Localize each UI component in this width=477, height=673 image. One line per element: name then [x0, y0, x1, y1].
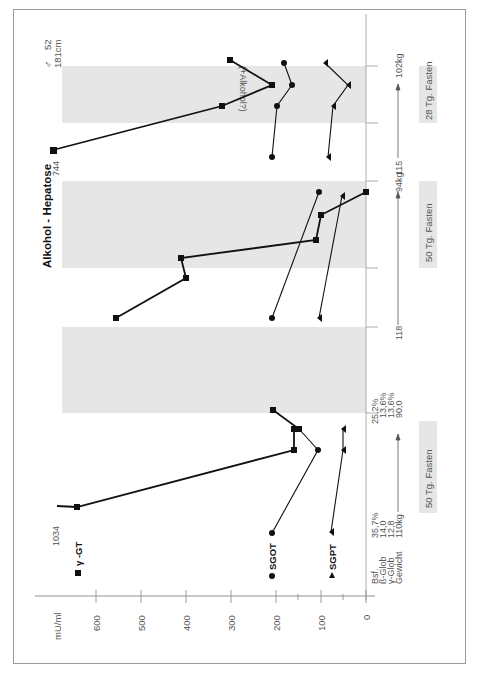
legend-sgpt-label: SGPT	[327, 544, 338, 570]
ggt-offchart-744: 744	[51, 161, 61, 176]
p1-ggt-line	[57, 410, 299, 507]
tick-label-0: 0	[361, 615, 372, 620]
tick-label-200: 200	[271, 615, 282, 631]
tick-label-300: 300	[226, 615, 237, 631]
p3-weight-end: 102kg	[394, 53, 404, 78]
patient-height: 181cm	[52, 39, 63, 68]
period-2-label: 50 Tg. Fasten	[423, 204, 434, 262]
tick-label-unit: mU/ml	[52, 613, 63, 640]
tick-label-400: 400	[181, 615, 192, 631]
period-1-shade	[62, 327, 366, 413]
ggt-offchart-1034: 1034	[51, 526, 61, 546]
period-1-label: 50 Tg. Fasten	[423, 450, 434, 508]
p2-weight-start: 118	[394, 326, 404, 340]
row-label-gewicht: Gewicht	[394, 551, 404, 584]
p3-weight-start: 115	[394, 161, 404, 175]
chart: mU/ml 600 500 400 300 200 100 0 γ -GT SG…	[0, 0, 477, 673]
annotation-alkohol: (+Alkohol?)	[238, 66, 248, 112]
legend-sgot-label: SGOT	[267, 543, 278, 570]
p1-sgot-line	[272, 429, 318, 533]
tick-label-600: 600	[91, 615, 102, 631]
period-3-shade	[62, 66, 366, 123]
p1-ggt-markers	[74, 407, 302, 510]
p1-sgpt-line	[331, 429, 343, 532]
legend-ggt-label: γ -GT	[73, 542, 84, 566]
period-3-label: 28 Tg. Fasten	[423, 62, 434, 120]
legend-ggt-marker	[75, 570, 81, 576]
legend-sgpt-marker	[329, 572, 335, 578]
tick-label-100: 100	[316, 615, 327, 631]
p1-weight-end: 90,0	[394, 400, 404, 418]
p1-weight-start: 110kg	[394, 514, 404, 538]
tick-label-500: 500	[136, 615, 147, 631]
axis-ticks	[96, 590, 366, 603]
chart-title: Alkohol - Hepatose	[41, 164, 53, 268]
legend-sgot-marker	[269, 573, 275, 579]
